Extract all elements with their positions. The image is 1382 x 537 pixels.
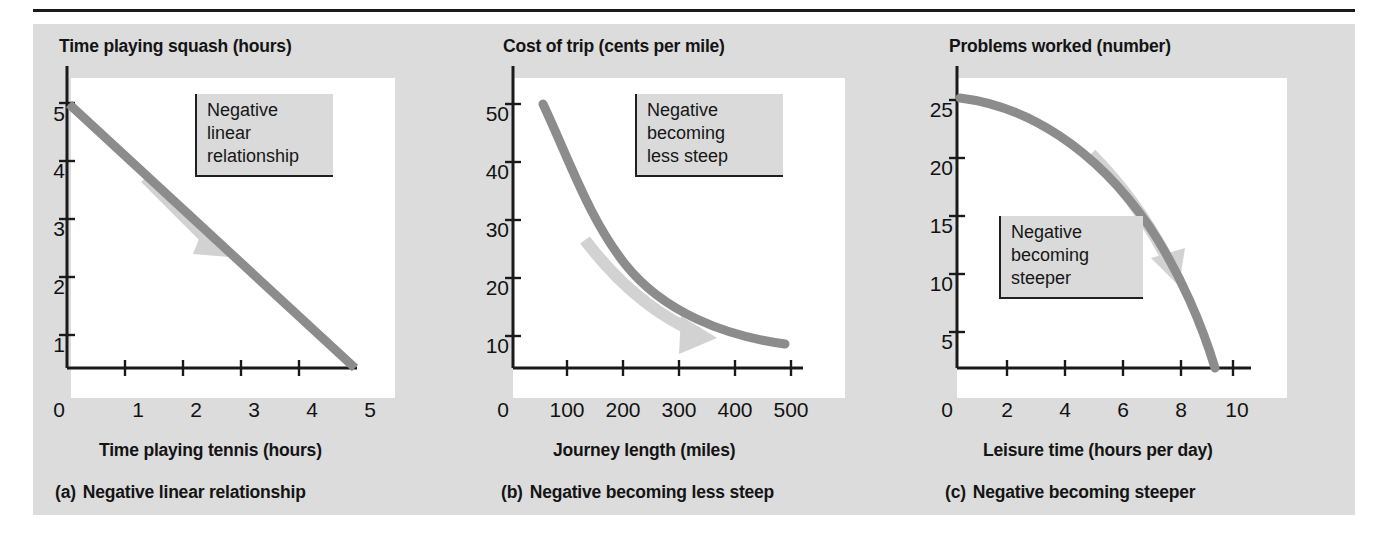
caption-a: (a)Negative linear relationship xyxy=(55,482,306,503)
chart-panel-a: Time playing squash (hours) 5 4 3 2 1 0 … xyxy=(33,24,483,515)
y-axis-title-a: Time playing squash (hours) xyxy=(59,36,292,57)
x-tick-c-8: 8 xyxy=(1163,398,1199,422)
x-tick-c-4: 4 xyxy=(1047,398,1083,422)
x-tick-b-300: 300 xyxy=(653,398,705,422)
annotation-callout-b: Negative becoming less steep xyxy=(635,94,783,177)
y-tick-c-origin: 0 xyxy=(909,398,953,422)
x-tick-a-5: 5 xyxy=(357,398,383,422)
caption-c: (c)Negative becoming steeper xyxy=(945,482,1195,503)
x-tick-c-6: 6 xyxy=(1105,398,1141,422)
top-rule-divider xyxy=(33,9,1355,12)
x-tick-a-1: 1 xyxy=(125,398,151,422)
chart-panel-b: Cost of trip (cents per mile) 50 40 30 2… xyxy=(485,24,925,515)
annotation-callout-a: Negative linear relationship xyxy=(195,94,333,177)
y-tick-b-origin: 0 xyxy=(461,398,509,422)
y-axis-title-b: Cost of trip (cents per mile) xyxy=(503,36,725,57)
caption-letter-a: (a) xyxy=(55,482,76,502)
x-tick-b-400: 400 xyxy=(709,398,761,422)
caption-letter-b: (b) xyxy=(501,482,523,502)
figure-page: Time playing squash (hours) 5 4 3 2 1 0 … xyxy=(0,0,1382,537)
x-axis-title-c: Leisure time (hours per day) xyxy=(983,440,1213,461)
figure-panel: Time playing squash (hours) 5 4 3 2 1 0 … xyxy=(33,24,1355,515)
x-tick-c-2: 2 xyxy=(989,398,1025,422)
x-tick-a-4: 4 xyxy=(299,398,325,422)
direction-arrow-b xyxy=(585,240,717,354)
x-tick-a-2: 2 xyxy=(183,398,209,422)
x-tick-b-200: 200 xyxy=(597,398,649,422)
caption-b: (b)Negative becoming less steep xyxy=(501,482,774,503)
x-axis-title-a: Time playing tennis (hours) xyxy=(99,440,322,461)
x-tick-a-3: 3 xyxy=(241,398,267,422)
y-tick-a-0: 0 xyxy=(31,398,65,422)
caption-text-c: Negative becoming steeper xyxy=(973,482,1196,502)
x-tick-b-100: 100 xyxy=(541,398,593,422)
y-axis-title-c: Problems worked (number) xyxy=(949,36,1171,57)
x-axis-title-b: Journey length (miles) xyxy=(553,440,735,461)
x-tick-b-500: 500 xyxy=(765,398,817,422)
chart-panel-c: Problems worked (number) 25 20 15 10 5 0… xyxy=(927,24,1355,515)
caption-text-b: Negative becoming less steep xyxy=(530,482,774,502)
x-tick-c-10: 10 xyxy=(1217,398,1257,422)
caption-letter-c: (c) xyxy=(945,482,966,502)
caption-text-a: Negative linear relationship xyxy=(83,482,306,502)
annotation-callout-c: Negative becoming steeper xyxy=(999,216,1143,299)
